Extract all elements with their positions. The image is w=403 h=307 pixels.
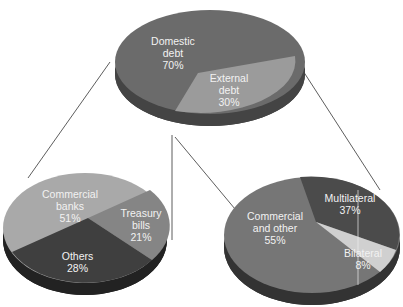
connector-line-left-outer	[28, 62, 110, 178]
label-multilateral: Multilateral 37%	[315, 192, 385, 216]
label-commercial-banks: Commercial banks 51%	[35, 188, 105, 224]
connector-line-right-inner	[175, 137, 240, 215]
label-bilateral: Bilateral 8%	[338, 247, 388, 271]
label-external-debt: External debt 30%	[199, 72, 259, 108]
label-domestic-debt: Domestic debt 70%	[143, 35, 203, 71]
label-commercial-and-other: Commercial and other 55%	[240, 210, 310, 246]
label-treasury-bills: Treasury bills 21%	[115, 207, 167, 243]
connector-line-right-outer	[296, 60, 380, 190]
label-others: Others 28%	[55, 250, 100, 274]
